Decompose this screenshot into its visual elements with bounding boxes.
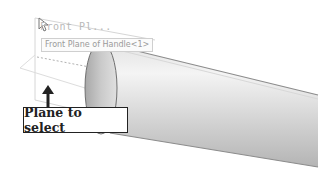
plane-tooltip: Front Plane of Handle<1> bbox=[41, 38, 153, 52]
graphics-viewport[interactable]: Front Pl... Front Plane of Handle<1> Pla… bbox=[0, 0, 336, 171]
callout-label: Plane to select bbox=[23, 107, 128, 133]
plane-name-label: Front Pl... bbox=[40, 21, 112, 32]
